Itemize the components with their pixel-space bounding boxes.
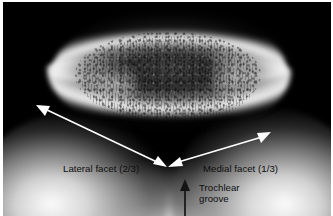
lateral-facet-arrowhead-lower-right: [153, 156, 167, 167]
trochlear-groove-label-line-2: groove: [199, 193, 269, 204]
annotation-overlay: [3, 2, 331, 216]
annotation-arrows: [3, 2, 331, 216]
trochlear-groove-label: Trochlear groove: [199, 182, 269, 205]
medial-facet-arrowhead-lower-left: [168, 157, 183, 167]
lateral-facet-arrow: [36, 105, 167, 167]
lateral-facet-label: Lateral facet (2/3): [63, 163, 139, 174]
medial-facet-arrow-shaft: [175, 137, 262, 163]
radiograph-figure: Lateral facet (2/3) Medial facet (1/3) T…: [0, 0, 333, 216]
trochlear-groove-arrow: [180, 179, 190, 216]
medial-facet-arrowhead-upper-right: [257, 132, 271, 143]
medial-facet-label: Medial facet (1/3): [203, 163, 278, 174]
trochlear-groove-arrowhead: [180, 179, 190, 191]
lateral-facet-arrow-shaft: [45, 109, 159, 163]
trochlear-groove-label-line-1: Trochlear: [199, 182, 269, 193]
medial-facet-arrow: [168, 132, 271, 167]
radiograph-plate: Lateral facet (2/3) Medial facet (1/3) T…: [3, 2, 331, 216]
